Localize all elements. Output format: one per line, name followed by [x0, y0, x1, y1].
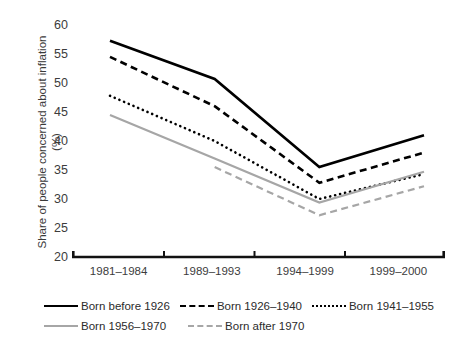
inflation-concern-line-chart: Share of people concerned about inflatio… — [0, 0, 451, 339]
legend-item-born-1956-1970[interactable]: Born 1956–1970 — [44, 316, 166, 336]
y-tick-label-60: 60 — [40, 18, 68, 32]
legend-row-1: Born before 1926Born 1926–1940Born 1941–… — [44, 296, 449, 316]
dashed-gray-line-key — [188, 320, 222, 332]
legend-row-2: Born 1956–1970Born after 1970 — [44, 316, 449, 336]
x-tick-label-2: 1994–1999 — [276, 265, 334, 277]
y-tick-label-30: 30 — [40, 192, 68, 206]
legend-label: Born before 1926 — [81, 300, 170, 312]
series-line-0 — [110, 41, 424, 167]
y-tick-label-20: 20 — [40, 250, 68, 264]
x-tick-label-0: 1981–1984 — [90, 265, 148, 277]
y-tick-label-45: 45 — [40, 105, 68, 119]
legend-item-born-1941-1955[interactable]: Born 1941–1955 — [312, 296, 434, 316]
legend-item-born-after-1970[interactable]: Born after 1970 — [188, 316, 304, 336]
legend-label: Born 1926–1940 — [217, 300, 302, 312]
y-tick-label-50: 50 — [40, 76, 68, 90]
x-axis-tick-labels: 1981–19841989–19931994–19991999–2000 — [72, 265, 445, 285]
dashed-black-line-key — [180, 300, 214, 312]
solid-gray-line-key — [44, 320, 78, 332]
series-line-2 — [110, 96, 424, 199]
chart-legend: Born before 1926Born 1926–1940Born 1941–… — [44, 296, 449, 338]
y-axis-tick-labels: 605550454035302520 — [40, 0, 68, 290]
series-line-3 — [110, 115, 424, 203]
legend-label: Born after 1970 — [225, 320, 304, 332]
legend-label: Born 1956–1970 — [81, 320, 166, 332]
dotted-black-line-key — [312, 300, 346, 312]
y-tick-label-40: 40 — [40, 134, 68, 148]
x-tick-label-3: 1999–2000 — [370, 265, 428, 277]
clipped-title-text — [34, 0, 414, 3]
solid-black-line-key — [44, 300, 78, 312]
legend-label: Born 1941–1955 — [349, 300, 434, 312]
plot-area — [72, 18, 445, 264]
legend-item-born-1926-1940[interactable]: Born 1926–1940 — [180, 296, 302, 316]
y-tick-label-55: 55 — [40, 47, 68, 61]
series-line-1 — [110, 57, 424, 183]
x-tick-label-1: 1989–1993 — [183, 265, 241, 277]
y-tick-label-35: 35 — [40, 163, 68, 177]
legend-item-born-before-1926[interactable]: Born before 1926 — [44, 296, 170, 316]
y-tick-label-25: 25 — [40, 221, 68, 235]
series-line-4 — [215, 167, 424, 215]
